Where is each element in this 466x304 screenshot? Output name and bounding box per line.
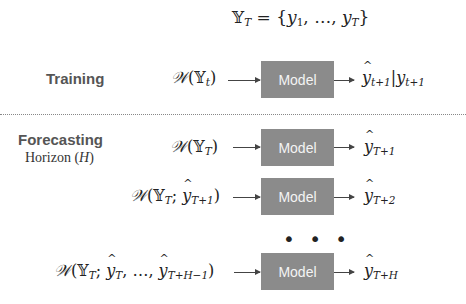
forecast-output-1: yT+1 xyxy=(364,137,396,157)
model-box-step-h: Model xyxy=(261,253,334,290)
training-label: Training xyxy=(46,70,104,87)
model-box-step-2: Model xyxy=(261,178,334,215)
arrow-icon xyxy=(334,147,354,148)
training-output: yt+1|yt+1 xyxy=(362,68,425,88)
set-definition: 𝕐T = {y1, …, yT} xyxy=(232,7,369,28)
forecast-output-2: yT+2 xyxy=(364,186,396,206)
arrow-icon xyxy=(228,80,260,81)
section-divider xyxy=(0,114,466,115)
arrow-icon xyxy=(233,197,260,198)
forecast-input-1: 𝒲(𝕐T) xyxy=(170,137,218,157)
forecasting-label: Forecasting xyxy=(18,131,103,148)
arrow-icon xyxy=(334,80,354,81)
forecast-input-h: 𝒲(𝕐T; yT, …, yT+H−1) xyxy=(54,261,214,281)
model-box-training: Model xyxy=(261,61,334,98)
arrow-icon xyxy=(334,197,354,198)
arrow-icon xyxy=(334,272,354,273)
training-input: 𝒲(𝕐t) xyxy=(171,68,216,88)
forecast-input-2: 𝒲(𝕐T; yT+1) xyxy=(130,186,220,206)
arrow-icon xyxy=(233,147,260,148)
forecast-output-h: yT+H xyxy=(364,261,398,281)
horizon-label: Horizon (H) xyxy=(25,150,94,166)
arrow-icon xyxy=(234,272,260,273)
model-box-step-1: Model xyxy=(261,129,334,166)
ellipsis: • • • xyxy=(283,227,351,251)
